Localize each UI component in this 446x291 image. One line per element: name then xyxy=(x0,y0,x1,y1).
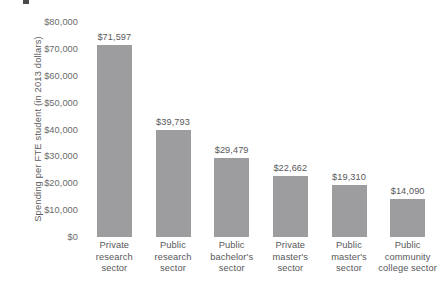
bar-column: $71,597 xyxy=(97,22,132,237)
x-category-label-line: Public xyxy=(320,240,379,252)
y-tick-label: $30,000 xyxy=(44,151,78,161)
x-axis-category-labels: PrivateresearchsectorPublicresearchsecto… xyxy=(85,240,437,290)
x-category-label: Privateresearchsector xyxy=(85,240,144,275)
x-category-label-line: bachelor's xyxy=(202,252,261,264)
x-category-label-line: sector xyxy=(202,263,261,275)
x-category-label-line: Public xyxy=(378,240,437,252)
x-category-label-line: master's xyxy=(261,252,320,264)
bar-column: $29,479 xyxy=(214,22,249,237)
x-category-label-line: sector xyxy=(144,263,203,275)
x-category-label: Publicmaster'ssector xyxy=(320,240,379,275)
x-category-label-line: research xyxy=(144,252,203,264)
x-category-label-line: Public xyxy=(144,240,203,252)
bar-column: $14,090 xyxy=(390,22,425,237)
clipped-title-artifact xyxy=(23,0,29,4)
y-tick-label: $0 xyxy=(68,232,78,242)
y-tick-label: $10,000 xyxy=(44,205,78,215)
x-category-label: Privatemaster'ssector xyxy=(261,240,320,275)
x-category-label: Publicbachelor'ssector xyxy=(202,240,261,275)
bar xyxy=(273,176,308,237)
y-tick-label: $50,000 xyxy=(44,98,78,108)
y-tick-label: $20,000 xyxy=(44,178,78,188)
x-category-label-line: research xyxy=(85,252,144,264)
x-category-label: Publiccommunitycollege sector xyxy=(378,240,437,275)
x-category-label-line: sector xyxy=(261,263,320,275)
bar-column: $39,793 xyxy=(156,22,191,237)
bar-value-label: $39,793 xyxy=(156,117,190,127)
chart-page: Spending per FTE student (in 2013 dollar… xyxy=(0,0,446,291)
bar xyxy=(214,158,249,237)
bar-value-label: $29,479 xyxy=(215,145,249,155)
bar xyxy=(390,199,425,237)
x-category-label-line: college sector xyxy=(378,263,437,275)
x-category-label-line: master's xyxy=(320,252,379,264)
bar xyxy=(97,45,132,237)
bar-value-label: $14,090 xyxy=(391,186,425,196)
bar-column: $19,310 xyxy=(332,22,367,237)
y-tick-label: $60,000 xyxy=(44,71,78,81)
x-category-label-line: Private xyxy=(85,240,144,252)
bar-column: $22,662 xyxy=(273,22,308,237)
y-tick-label: $80,000 xyxy=(44,17,78,27)
plot-area: $71,597$39,793$29,479$22,662$19,310$14,0… xyxy=(85,22,437,237)
y-tick-label: $40,000 xyxy=(44,125,78,135)
bar xyxy=(332,185,367,237)
x-category-label-line: Private xyxy=(261,240,320,252)
x-category-label: Publicresearchsector xyxy=(144,240,203,275)
bar-value-label: $71,597 xyxy=(97,32,131,42)
y-axis-tick-labels: $80,000$70,000$60,000$50,000$40,000$30,0… xyxy=(0,22,78,237)
x-category-label-line: Public xyxy=(202,240,261,252)
x-category-label-line: sector xyxy=(85,263,144,275)
x-category-label-line: sector xyxy=(320,263,379,275)
y-tick-label: $70,000 xyxy=(44,44,78,54)
bar xyxy=(156,130,191,237)
bar-value-label: $19,310 xyxy=(332,172,366,182)
bar-value-label: $22,662 xyxy=(273,163,307,173)
x-category-label-line: community xyxy=(378,252,437,264)
